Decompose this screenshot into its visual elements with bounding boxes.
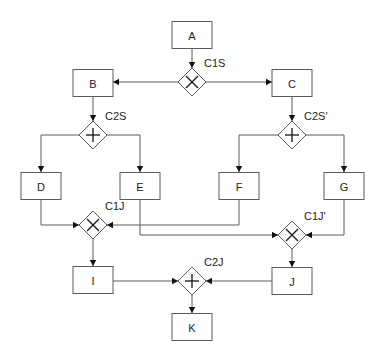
- edge-e-to-c1j-prime-line: [140, 200, 278, 235]
- arrowhead-icon: [236, 166, 242, 172]
- arrowhead-icon: [272, 232, 278, 238]
- arrowhead-icon: [189, 62, 195, 68]
- task-label: J: [289, 276, 295, 288]
- edge-c2s-prime-to-f-line: [239, 135, 278, 172]
- edge-j-to-c2j: [206, 278, 272, 284]
- task-f: F: [219, 173, 259, 200]
- task-label: A: [188, 30, 196, 42]
- task-b: B: [73, 70, 113, 97]
- task-e: E: [120, 173, 160, 200]
- edge-d-to-c1j: [41, 200, 79, 228]
- gateway-label: C1S: [204, 57, 225, 69]
- task-label: K: [188, 322, 196, 334]
- edge-c2s-to-d: [38, 135, 79, 172]
- gateway-c2s-prime: C2S': [278, 110, 328, 149]
- gateway-label: C2S: [105, 110, 126, 122]
- arrowhead-icon: [90, 260, 96, 266]
- edge-c1j-to-i: [90, 239, 96, 266]
- edge-f-to-c1j: [107, 200, 239, 228]
- arrowhead-icon: [38, 166, 44, 172]
- edge-d-to-c1j-line: [41, 200, 79, 225]
- gateway-label: C2S': [304, 110, 328, 122]
- edge-c2j-to-k: [189, 295, 195, 313]
- task-label: F: [236, 181, 243, 193]
- edge-c1s-to-c: [206, 79, 272, 85]
- arrowhead-icon: [289, 261, 295, 267]
- task-j: J: [272, 268, 312, 295]
- edge-c2s-to-d-line: [41, 135, 79, 172]
- gateway-c2j: C2J: [178, 256, 224, 295]
- arrowhead-icon: [172, 278, 178, 284]
- arrowhead-icon: [341, 166, 347, 172]
- task-g: G: [324, 173, 364, 200]
- arrowhead-icon: [289, 115, 295, 121]
- task-label: E: [136, 181, 143, 193]
- gateway-c2s: C2S: [79, 110, 126, 149]
- edge-c1s-to-b: [113, 79, 178, 85]
- edge-c2s-prime-to-g: [306, 135, 347, 172]
- edge-c2s-to-e-line: [107, 135, 140, 172]
- arrowhead-icon: [137, 166, 143, 172]
- edge-c2s-prime-to-g-line: [306, 135, 344, 172]
- gateway-label: C1J': [304, 210, 326, 222]
- edge-c2s-to-e: [107, 135, 143, 172]
- gateway-c1j: C1J: [79, 200, 125, 239]
- arrowhead-icon: [73, 222, 79, 228]
- task-label: I: [91, 275, 94, 287]
- arrowhead-icon: [107, 222, 113, 228]
- task-label: C: [288, 78, 296, 90]
- gateway-c1j-prime: C1J': [278, 210, 326, 249]
- edge-e-to-c1j-prime: [140, 200, 278, 238]
- arrowhead-icon: [206, 278, 212, 284]
- arrowhead-icon: [266, 79, 272, 85]
- task-label: G: [340, 181, 349, 193]
- arrowhead-icon: [306, 232, 312, 238]
- process-diagram: C1SC2SC2S'C1JC1J'C2J ABCDEFGIJK: [0, 0, 388, 356]
- task-label: B: [89, 78, 96, 90]
- gateway-label: C1J: [105, 200, 125, 212]
- task-i: I: [73, 267, 113, 294]
- task-d: D: [21, 173, 61, 200]
- edge-c1j-prime-to-j: [289, 249, 295, 267]
- arrowhead-icon: [90, 115, 96, 121]
- gateway-c1s: C1S: [178, 57, 225, 96]
- edge-f-to-c1j-line: [107, 200, 239, 225]
- task-label: D: [37, 181, 45, 193]
- edge-i-to-c2j: [113, 278, 178, 284]
- arrowhead-icon: [189, 307, 195, 313]
- task-k: K: [172, 314, 212, 341]
- edge-c-to-c2s-prime: [289, 97, 295, 121]
- edge-b-to-c2s: [90, 97, 96, 121]
- edge-a-to-c1s: [189, 48, 195, 68]
- gateway-label: C2J: [204, 256, 224, 268]
- task-c: C: [272, 70, 312, 97]
- edge-c2s-prime-to-f: [236, 135, 278, 172]
- task-a: A: [172, 22, 212, 49]
- arrowhead-icon: [113, 79, 119, 85]
